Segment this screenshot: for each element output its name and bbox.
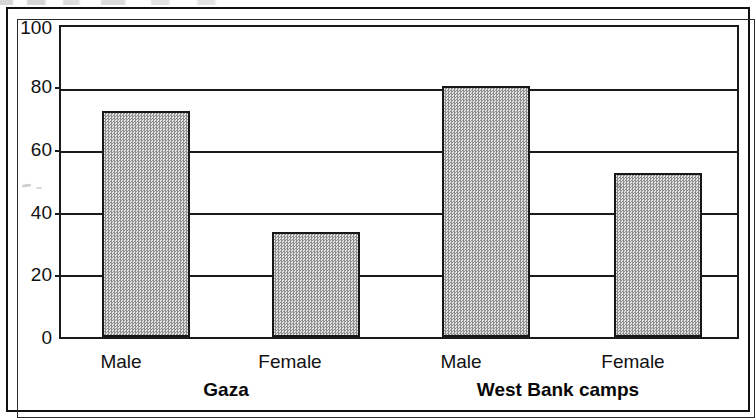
bar-west-bank-female bbox=[614, 173, 702, 337]
x-label-gaza-male: Male bbox=[60, 352, 182, 371]
bar-gaza-male bbox=[102, 111, 190, 337]
gridline-80 bbox=[61, 89, 737, 91]
y-tick-label-80: 80 bbox=[31, 77, 52, 96]
x-label-west-bank-female: Female bbox=[571, 352, 695, 371]
group-label-gaza: Gaza bbox=[146, 380, 306, 399]
y-tick-label-20: 20 bbox=[31, 265, 52, 284]
bar-west-bank-male bbox=[442, 86, 530, 337]
group-label-west-bank-camps: West Bank camps bbox=[443, 380, 673, 399]
bar-gaza-female bbox=[272, 232, 360, 337]
y-tick-label-40: 40 bbox=[31, 203, 52, 222]
bar-chart: 100 80 60 40 20 0 Male Female Male Femal… bbox=[0, 0, 756, 420]
y-axis: 100 80 60 40 20 0 bbox=[0, 0, 52, 420]
y-tick-label-0: 0 bbox=[41, 328, 52, 347]
plot-area bbox=[59, 25, 739, 339]
y-tick-label-60: 60 bbox=[31, 140, 52, 159]
y-tick-label-100: 100 bbox=[20, 18, 52, 37]
x-label-gaza-female: Female bbox=[228, 352, 352, 371]
x-label-west-bank-male: Male bbox=[400, 352, 522, 371]
